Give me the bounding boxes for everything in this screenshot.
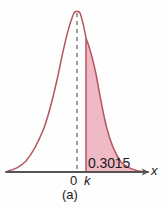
x-tick-label-k: k: [84, 174, 91, 187]
figure-caption: (a): [62, 188, 78, 201]
x-axis-label: x: [151, 164, 158, 177]
x-tick-label-zero: 0: [70, 174, 77, 187]
normal-curve-figure: 0.3015 0 k x (a): [0, 0, 166, 210]
normal-distribution-plot: [0, 0, 166, 210]
normal-curve-line: [8, 11, 145, 172]
shaded-area-value-label: 0.3015: [88, 156, 130, 170]
